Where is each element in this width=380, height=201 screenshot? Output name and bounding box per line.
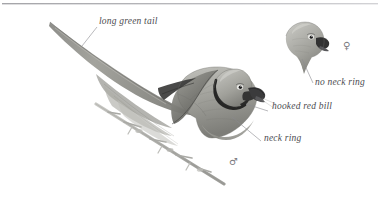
bird-head-male [214,69,276,109]
head-female [286,22,329,74]
label-neck-ring: neck ring [264,134,301,144]
label-long-green-tail: long green tail [99,17,158,27]
top-rule [2,3,378,4]
label-no-neck-ring: no neck ring [315,78,365,88]
leader-long-green-tail [82,27,97,46]
full-bird-male [49,22,276,184]
male-symbol: ♂ [229,157,238,167]
label-hooked-red-bill: hooked red bill [272,102,332,112]
female-symbol: ♀ [343,41,350,51]
